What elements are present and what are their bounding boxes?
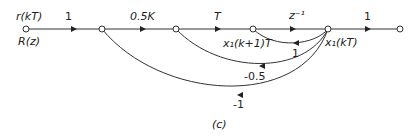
arrow-icon xyxy=(140,26,146,32)
input-time-label: r(kT) xyxy=(16,10,42,23)
node-3-label: x₁(k+1)T xyxy=(222,37,273,50)
input-z-label: R(z) xyxy=(18,35,40,48)
node-4 xyxy=(325,26,331,32)
gain-label: z⁻¹ xyxy=(288,9,305,22)
node-4-label: x₁(kT) xyxy=(324,36,358,49)
arrow-icon xyxy=(215,26,221,32)
node-input xyxy=(23,26,29,32)
gain-label: T xyxy=(214,10,222,23)
arrow-icon xyxy=(365,26,371,32)
gain-label: -0.5 xyxy=(244,70,265,83)
gain-label: 0.5K xyxy=(130,10,155,23)
signal-flow-graph: r(kT) R(z) x₁(k+1)T x₁(kT) 1 0.5K T z⁻¹ … xyxy=(0,0,417,136)
gain-label: -1 xyxy=(233,98,244,111)
node-output xyxy=(397,26,403,32)
gain-label: 1 xyxy=(292,47,299,60)
node-1 xyxy=(99,26,105,32)
node-3 xyxy=(250,26,256,32)
node-2 xyxy=(173,26,179,32)
arrow-icon xyxy=(293,40,299,46)
figure-caption: (c) xyxy=(212,118,227,131)
gain-label: 1 xyxy=(65,10,72,23)
arrow-icon xyxy=(71,26,77,32)
gain-label: 1 xyxy=(364,10,371,23)
arrow-icon xyxy=(290,26,296,32)
